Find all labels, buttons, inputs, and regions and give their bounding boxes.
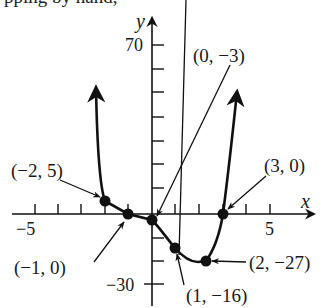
point-3-0 xyxy=(218,209,229,220)
x-axis-label: x xyxy=(300,190,310,212)
y-tick-label-70: 70 xyxy=(125,35,143,55)
y-axis-ticks xyxy=(144,45,164,284)
x-tick-label-neg5: −5 xyxy=(16,219,35,239)
label-point-2-neg27: (2, −27) xyxy=(249,252,310,274)
label-point-neg1-0: (−1, 0) xyxy=(14,257,66,279)
y-tick-label-neg30: −30 xyxy=(106,275,134,295)
label-point-0-neg3: (0, −3) xyxy=(193,45,245,67)
x-tick-label-5: 5 xyxy=(265,219,274,239)
point-neg1-0 xyxy=(123,209,134,220)
label-point-3-0: (3, 0) xyxy=(264,155,305,177)
y-axis-label: y xyxy=(134,10,145,33)
leader-arrows xyxy=(60,0,266,285)
point-0-neg3 xyxy=(147,215,158,226)
label-point-1-neg16: (1, −16) xyxy=(186,285,247,307)
y-axis: 70 −30 y xyxy=(106,10,164,306)
polynomial-graph: −5 5 x 70 −30 y xyxy=(0,0,336,308)
point-2-neg27 xyxy=(201,256,212,267)
polynomial-curve xyxy=(96,88,237,262)
label-point-neg2-5: (−2, 5) xyxy=(11,160,63,182)
point-neg2-5 xyxy=(100,196,111,207)
